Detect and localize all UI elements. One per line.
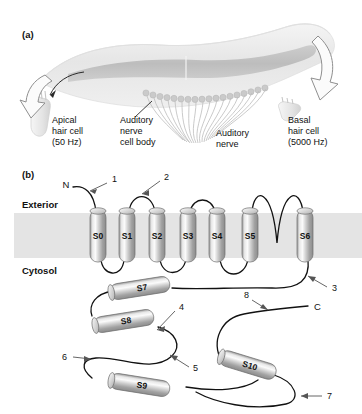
annotation-basal-hair-cell: Basal hair cell (5000 Hz) [288,115,328,147]
svg-text:Apical: Apical [52,115,77,125]
figure-svg: (a) [0,0,362,414]
callout-3: 3 [308,276,337,293]
helix-S6: S6 [297,208,313,262]
helix-S2: S2 [149,208,165,262]
c-terminus-label: C [314,301,321,312]
svg-text:4: 4 [179,302,184,312]
svg-text:(5000 Hz): (5000 Hz) [288,137,328,147]
cytosolic-helices: S7 S8 S9 S10 [91,275,278,397]
helix-S8: S8 [91,308,155,334]
helix-S4: S4 [209,208,225,262]
svg-text:S7: S7 [136,282,148,294]
helix-S9: S9 [107,372,171,398]
helix-S7: S7 [107,275,171,301]
callout-5: 5 [170,355,198,373]
callout-7: 7 [301,391,332,401]
loop-s8-s9 [84,327,177,378]
loop-s0-s1 [101,259,124,273]
svg-text:S3: S3 [183,231,194,241]
svg-text:nerve: nerve [216,139,239,149]
svg-text:5: 5 [193,363,198,373]
annotation-auditory-nerve: Auditory nerve [216,128,250,149]
callout-2: 2 [142,172,169,196]
helix-S10: S10 [216,348,278,381]
panel-a-label: (a) [22,29,34,40]
svg-text:hair cell: hair cell [288,126,319,136]
loop-s10-c [196,375,295,407]
annotation-nerve-cell-body: Auditory nerve cell body [120,115,156,147]
callout-8: 8 [244,290,268,310]
svg-text:S8: S8 [120,315,132,327]
loop-s6-to-s7 [172,259,308,289]
label-exterior: Exterior [22,199,58,210]
svg-text:hair cell: hair cell [52,126,83,136]
svg-text:S9: S9 [136,380,148,392]
loop-s4-s5 [220,259,248,274]
svg-text:3: 3 [332,283,337,293]
callouts: 1 2 3 4 5 [62,172,337,401]
panel-b: (b) Exterior Cytosol [14,169,362,407]
loop-s9-s10 [186,380,258,390]
helix-S0: S0 [90,208,106,262]
svg-text:1: 1 [112,174,117,184]
panel-b-label: (b) [22,169,34,180]
svg-text:Auditory: Auditory [216,128,250,138]
callout-1: 1 [90,174,117,194]
svg-text:S5: S5 [245,231,256,241]
label-cytosol: Cytosol [22,265,57,276]
svg-text:Basal: Basal [288,115,311,125]
loop-s2-s3 [160,259,186,273]
svg-text:S0: S0 [93,231,104,241]
n-terminus-label: N [63,179,70,190]
svg-text:S1: S1 [122,231,133,241]
annotation-apical-hair-cell: Apical hair cell (50 Hz) [52,115,83,147]
svg-text:(50 Hz): (50 Hz) [52,137,82,147]
svg-text:nerve: nerve [120,126,143,136]
svg-text:2: 2 [164,172,169,182]
helix-S1: S1 [119,208,135,262]
helix-S3: S3 [180,208,196,262]
svg-text:S6: S6 [300,231,311,241]
svg-text:7: 7 [327,391,332,401]
panel-a: (a) [20,24,338,149]
callout-6: 6 [62,352,91,362]
svg-text:S4: S4 [212,231,223,241]
helix-S5: S5 [242,208,258,262]
svg-text:cell body: cell body [120,137,156,147]
figure-root: (a) [0,0,362,414]
svg-text:8: 8 [244,290,249,300]
svg-text:S2: S2 [152,231,163,241]
svg-text:Auditory: Auditory [120,115,154,125]
svg-text:6: 6 [62,352,67,362]
